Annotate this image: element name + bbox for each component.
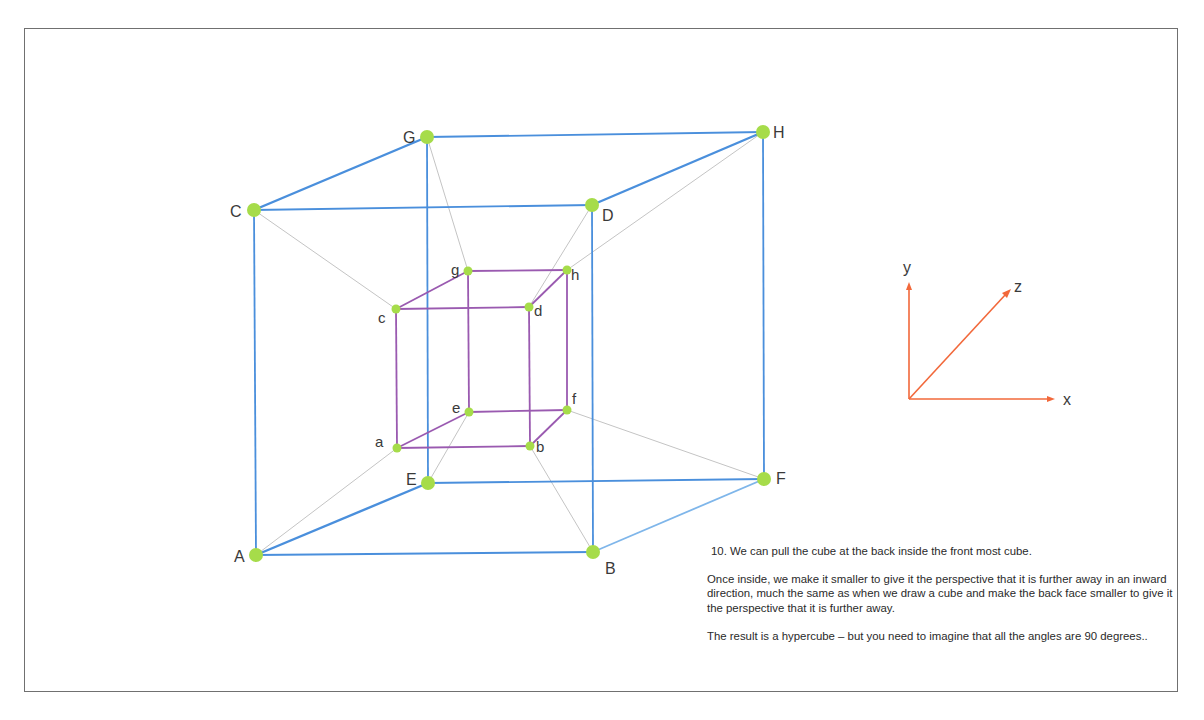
vertex-label-b: b [536, 438, 544, 455]
caption-paragraph-1: Once inside, we make it smaller to give … [707, 572, 1177, 616]
vertex-a [393, 444, 402, 453]
z-axis-arrow [909, 294, 1006, 399]
vertex-label-G: G [403, 129, 415, 146]
vertex-label-A: A [234, 548, 245, 565]
vertex-b [526, 442, 535, 451]
vertex-label-c: c [378, 309, 386, 326]
vertex-label-h: h [571, 266, 579, 283]
connector-C-c [254, 210, 396, 309]
inner-edge-gh [468, 270, 567, 271]
vertex-label-e: e [452, 399, 460, 416]
vertex-E [421, 476, 435, 490]
outer-edge-CD [254, 205, 592, 210]
outer-edge-GH [427, 132, 763, 137]
caption-text-box: 10. We can pull the cube at the back ins… [707, 544, 1177, 644]
vertex-label-D: D [602, 207, 614, 224]
vertex-label-C: C [230, 203, 242, 220]
connector-D-d [529, 205, 592, 307]
vertex-d [525, 303, 534, 312]
outer-edge-DH [592, 132, 763, 205]
inner-edge-bd [529, 307, 530, 446]
outer-edge-BF [593, 479, 764, 552]
vertex-label-H: H [773, 124, 785, 141]
z-axis-label: z [1014, 278, 1022, 295]
vertex-f [563, 406, 572, 415]
vertex-B [586, 545, 600, 559]
vertex-c [392, 305, 401, 314]
y-axis-label: y [903, 259, 911, 276]
vertex-label-F: F [776, 470, 786, 487]
connector-G-g [427, 137, 468, 271]
vertex-C [247, 203, 261, 217]
vertex-label-d: d [534, 302, 542, 319]
connector-lines [254, 132, 764, 555]
axis-indicator: y x z [903, 259, 1071, 408]
connector-A-a [256, 448, 397, 555]
vertex-H [756, 125, 770, 139]
vertex-label-g: g [451, 261, 459, 278]
vertex-e [465, 408, 474, 417]
caption-step: 10. We can pull the cube at the back ins… [711, 544, 1177, 559]
outer-edge-AC [254, 210, 256, 555]
x-axis-label: x [1063, 391, 1071, 408]
vertex-G [420, 130, 434, 144]
y-axis-arrowhead [906, 282, 912, 290]
vertex-label-f: f [572, 390, 577, 407]
outer-edge-EG [427, 137, 428, 483]
vertex-label-B: B [605, 560, 616, 577]
outer-cube-edges [254, 132, 764, 555]
vertex-label-a: a [375, 433, 384, 450]
inner-edge-cd [396, 307, 529, 309]
vertices [247, 125, 771, 562]
vertex-A [249, 548, 263, 562]
inner-cube-edges [396, 270, 567, 448]
outer-edge-AE [256, 483, 428, 555]
vertex-D [585, 198, 599, 212]
vertex-labels: ABCDEFGHabcdefgh [230, 124, 786, 577]
inner-edge-eg [468, 271, 469, 412]
inner-edge-ef [469, 410, 567, 412]
vertex-g [464, 267, 473, 276]
outer-edge-FH [763, 132, 764, 479]
inner-edge-ac [396, 309, 397, 448]
inner-edge-ab [397, 446, 530, 448]
x-axis-arrowhead [1047, 396, 1055, 402]
outer-edge-AB [256, 552, 593, 555]
connector-B-b [530, 446, 593, 552]
outer-edge-CG [254, 137, 427, 210]
connector-F-f [567, 410, 764, 479]
vertex-label-E: E [406, 471, 417, 488]
caption-paragraph-2: The result is a hypercube – but you need… [707, 629, 1177, 644]
vertex-F [757, 472, 771, 486]
outer-edge-BD [592, 205, 593, 552]
outer-edge-EF [428, 479, 764, 483]
